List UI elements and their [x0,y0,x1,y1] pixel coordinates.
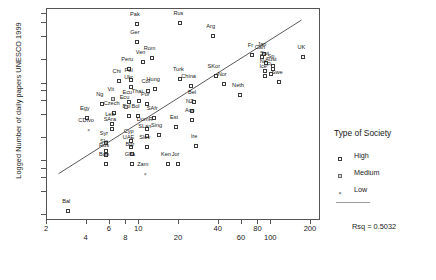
data-point-marker [190,118,194,122]
data-point-label: Ven [136,49,146,55]
x-tick-label: 10 [118,224,158,233]
data-point-label: Bal [62,198,70,204]
data-point-marker: × [143,172,148,177]
x-tick-label: 4 [66,233,106,242]
data-point-label: Turk [173,66,184,72]
legend-marker-icon [334,147,346,165]
data-point-label: Ken [161,151,171,157]
data-point-label: Rom [144,45,156,51]
data-point-marker [110,127,114,131]
data-point-marker [211,34,215,38]
data-point-label: Bol [131,103,139,109]
data-point-label: Ng [96,91,103,97]
legend-marker-icon: × [334,181,346,199]
legend-entry-label: Low [354,185,367,194]
data-point-marker [238,93,242,97]
data-point-label: Arg [206,23,215,29]
data-point-label: Rus [99,142,109,148]
legend-entries: HighMedium×Low [334,147,434,198]
legend-entry[interactable]: ×Low [334,181,434,198]
legend-entry[interactable]: Medium [334,164,434,181]
data-point-marker [260,55,264,59]
legend-entry-label: Medium [354,168,380,177]
data-point-marker [166,162,170,166]
data-point-label: Zam [137,161,148,167]
data-point-label: Neth [232,82,244,88]
x-tick-mark [109,220,110,224]
data-point-label: Fr [248,42,253,48]
data-point-label: Ire [191,133,198,139]
data-point-marker [141,60,145,64]
data-point-label: Pol [125,67,133,73]
data-point-label: Chi [113,68,121,74]
data-point-label: China [181,73,196,79]
data-point-label: Fi [267,61,272,67]
data-point-label: Hung [146,76,159,82]
data-point-marker [263,74,267,78]
data-point-label: Rus [173,10,183,16]
data-point-marker [150,56,154,60]
data-point-marker [130,162,134,166]
data-point-label: Jor [172,151,180,157]
data-point-label: Slov [139,134,150,140]
data-point-label: Czech [104,100,120,106]
plot-area: PakRusGerArgRomVenPeruFrJapSwiSpNeIceChi… [46,8,320,220]
data-point-label: Egy [80,105,90,111]
data-point-label: Gha [125,151,136,157]
data-point-marker [111,97,115,101]
data-point-label: Vit [108,86,114,92]
data-point-marker [110,122,114,126]
data-point-label: Pak [130,11,140,17]
y-axis-label: Logged Number of daily papers UNESCO 199… [14,0,23,211]
data-point-label: Cyp [124,128,134,134]
data-point-marker [277,80,281,84]
data-point-label: Peru [121,56,133,62]
data-point-marker [135,40,139,44]
data-point-marker [157,133,161,137]
data-point-marker [250,53,254,57]
x-tick-label: 40 [198,224,238,233]
data-point-marker [145,145,149,149]
data-point-label: SKor [208,63,220,69]
data-point-marker [104,162,108,166]
x-tick-label: 8 [105,233,145,242]
data-point-marker [135,22,139,26]
data-points-layer: PakRusGerArgRomVenPeruFrJapSwiSpNeIceChi… [47,9,319,219]
legend-divider [336,202,370,203]
data-point-label: UK [297,44,305,50]
data-point-label: Ger [130,29,139,35]
data-point-marker [124,105,128,109]
data-point-marker [153,87,157,91]
data-point-marker [174,125,178,129]
data-point-label: Syr [100,130,108,136]
data-point-marker [127,114,131,118]
rsq-annotation: Rsq = 0.5032 [352,222,396,231]
legend-entry[interactable]: High [334,147,434,164]
data-point-marker [263,69,267,73]
data-point-label: SAra [104,116,116,122]
data-point-label: Por [141,91,150,97]
data-point-label: Ecu [120,94,130,100]
x-tick-mark [257,220,258,224]
data-point-label: SAfr [147,105,158,111]
data-point-label: Aus [185,107,195,113]
legend-title: Type of Society [334,128,434,138]
x-tick-label: 20 [158,233,198,242]
x-tick-mark [270,220,271,224]
legend-marker-icon [334,164,346,182]
data-point-marker [117,79,121,83]
data-point-marker: × [86,128,91,133]
data-point-label: Bel [188,89,196,95]
x-tick-label: 200 [290,224,330,233]
data-point-label: Ban [99,151,109,157]
x-tick-mark [46,220,47,224]
data-point-label: CDIvo [78,117,94,123]
legend-entry-label: High [354,151,369,160]
x-tick-mark [218,220,219,224]
x-tick-mark [138,220,139,224]
data-point-marker [66,209,70,213]
x-tick-label: 2 [26,224,66,233]
data-point-label: UAE [123,134,135,140]
data-point-marker [194,144,198,148]
scatter-chart: Logged Number of daily papers UNESCO 199… [0,0,436,280]
